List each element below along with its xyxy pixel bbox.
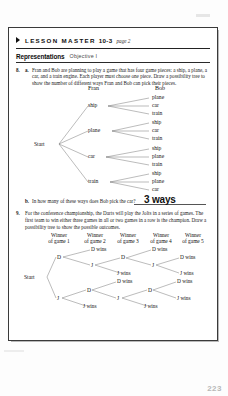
header-line-2: of game 5 <box>176 238 210 245</box>
handwritten-answer-8b: 3 ways <box>144 193 176 206</box>
tree2-outcome-bot-g5-d-wins: D wins <box>177 278 192 284</box>
tree1-leaf-bob: train <box>152 135 162 141</box>
problem-number: 8. <box>16 67 25 87</box>
tree1-leaf-bob: train <box>152 110 162 116</box>
scan-speck <box>196 14 210 17</box>
tree1-leaf-bob: plane <box>152 178 164 184</box>
tree2-column-header-game2: Winner of game 2 <box>78 232 112 246</box>
tree2-outcome-top-g3-j-wins: J wins <box>117 270 131 276</box>
header-line-1: Winner <box>176 232 210 239</box>
tree2-node-top-g4-j: J <box>152 262 154 268</box>
tree1-leaf-bob: car <box>152 186 159 192</box>
tree1-leaf-bob: car <box>152 102 159 108</box>
tree2-outcome-bot-g4-j-wins: J wins <box>144 303 158 309</box>
tree1-node-fran-ship: ship <box>88 102 97 108</box>
right-triangle-bullet-icon <box>16 37 20 43</box>
tree1-leaf-bob: plane <box>152 94 164 100</box>
tree2-outcome-bot-g5-j-wins: J wins <box>177 295 191 301</box>
tree1-leaf-bob: plane <box>152 153 164 159</box>
worksheet-page: LESSON MASTER 10-3 page 2 Representation… <box>8 27 218 341</box>
header-rule <box>16 48 210 49</box>
problem-text: In how many of these ways does Bob pick … <box>32 198 136 205</box>
tree1-column-header-fran: Fran <box>88 85 99 91</box>
tree1-leaf-bob: ship <box>152 145 161 151</box>
tree1-node-fran-car: car <box>88 153 95 159</box>
header-line-2: of game 3 <box>111 238 145 245</box>
tree1-connector-lines <box>16 89 210 197</box>
tree1-node-fran-train: train <box>88 178 98 184</box>
tree1-node-fran-plane: plane <box>88 127 100 133</box>
header-line-1: Winner <box>144 232 178 239</box>
tree2-root-start: Start <box>24 274 35 280</box>
problem-number <box>16 198 25 205</box>
tree2-outcome-bot-g3-d-wins: D wins <box>117 278 132 284</box>
lesson-master-page-label: page 2 <box>116 38 130 44</box>
tree1-leaf-bob: train <box>152 161 162 167</box>
tree2-node-top-g3-d: D <box>121 254 125 260</box>
lesson-master-header: LESSON MASTER 10-3 page 2 <box>16 37 210 44</box>
footer-page-number: 223 <box>207 384 222 393</box>
tree2-outcome-top-g5-j-wins: J wins <box>180 270 194 276</box>
problem-8a: 8. a. Fran and Bob are planning to play … <box>16 67 210 87</box>
header-line-2: of game 4 <box>144 238 178 245</box>
header-line-2: of game 1 <box>42 238 76 245</box>
tree2-node-bot-g4-d: D <box>148 287 152 293</box>
tree2-column-header-game5: Winner of game 5 <box>176 232 210 246</box>
section-name: Representations <box>16 53 65 60</box>
problem-letter: a. <box>25 67 32 87</box>
tree2-outcome-top-g2-d-wins: D wins <box>91 246 106 252</box>
problem-text: Fran and Bob are planning to play a game… <box>32 67 210 87</box>
tree2-node-top-g2-j: J <box>91 262 93 268</box>
section-objective: Objective I <box>70 53 98 59</box>
problem-letter: b. <box>25 198 32 205</box>
tree2-outcome-top-g5-d-wins: D wins <box>180 254 195 260</box>
tree2-node-g1-d: D <box>57 254 61 260</box>
tree1-root-start: Start <box>34 141 45 147</box>
problem-number: 9. <box>16 210 25 230</box>
problem-text: For the conference championship, the Dar… <box>25 210 210 230</box>
tree2-column-header-game4: Winner of game 4 <box>144 232 178 246</box>
scanned-page-background: LESSON MASTER 10-3 page 2 Representation… <box>0 0 228 396</box>
possibility-tree-darts-jolts: Winner of game 1 Winner of game 2 Winner… <box>16 232 210 312</box>
tree2-node-bot-g2-d: D <box>87 287 91 293</box>
tree1-column-header-bob: Bob <box>155 85 165 91</box>
tree2-column-header-game3: Winner of game 3 <box>111 232 145 246</box>
possibility-tree-fran-bob: Fran Bob Start ship plane car train plan… <box>16 89 210 197</box>
tree2-outcome-top-g4-d-wins: D wins <box>152 246 167 252</box>
problem-8b: b. In how many of these ways does Bob pi… <box>16 198 210 205</box>
header-line-2: of game 2 <box>78 238 112 245</box>
tree2-node-bot-g3-j: J <box>117 295 119 301</box>
section-header: Representations Objective I <box>16 53 210 60</box>
tree2-node-g1-j: J <box>57 295 59 301</box>
tree1-leaf-bob: ship <box>152 119 161 125</box>
header-line-1: Winner <box>111 232 145 239</box>
lesson-master-title: LESSON MASTER <box>25 37 96 44</box>
section-rule <box>16 62 210 63</box>
tree2-outcome-bot-g2-j-wins: J wins <box>83 303 97 309</box>
scan-speck <box>4 350 24 352</box>
lesson-master-number: 10-3 <box>99 37 113 44</box>
problem-9: 9. For the conference championship, the … <box>16 210 210 230</box>
tree1-leaf-bob: ship <box>152 170 161 176</box>
header-line-1: Winner <box>42 232 76 239</box>
tree1-leaf-bob: car <box>152 127 159 133</box>
header-line-1: Winner <box>78 232 112 239</box>
tree2-column-header-game1: Winner of game 1 <box>42 232 76 246</box>
